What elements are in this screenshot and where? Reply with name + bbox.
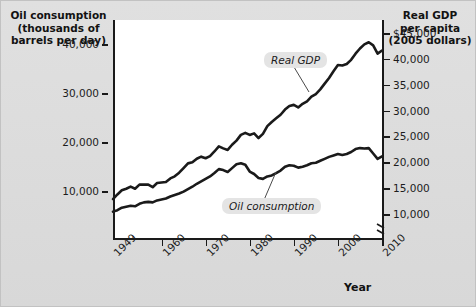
series-label-oil-consumption: Oil consumption — [222, 198, 321, 214]
curve-real-gdp — [113, 42, 382, 199]
axis-break-mark — [377, 224, 384, 234]
figure-oil-gdp-chart: Oil consumption (thousands of barrels pe… — [0, 0, 476, 307]
series-label-real-gdp: Real GDP — [264, 52, 327, 68]
series-curves — [0, 0, 476, 307]
